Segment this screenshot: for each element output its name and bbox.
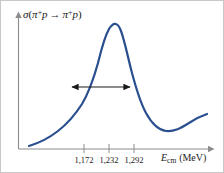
x-tick-label-1172: 1,172: [74, 156, 93, 165]
resonance-figure: σ(π+p→π+p) Ecm(MeV) 1,172 1,232 1,292: [0, 0, 224, 173]
x-axis-label: Ecm(MeV): [161, 153, 206, 164]
y-axis-label: σ(π+p→π+p): [23, 9, 82, 20]
cross-section-curve: [29, 24, 207, 146]
y-label-p-in: p: [42, 8, 48, 20]
y-label-arrow-icon: →: [48, 8, 63, 20]
y-label-close-paren: ): [78, 8, 82, 20]
plot-canvas: [1, 1, 224, 173]
x-label-units: (MeV): [176, 152, 206, 163]
x-tick-label-1232: 1,232: [99, 156, 118, 165]
x-label-subscript: cm: [167, 156, 176, 165]
x-tick-label-1292: 1,292: [124, 156, 143, 165]
